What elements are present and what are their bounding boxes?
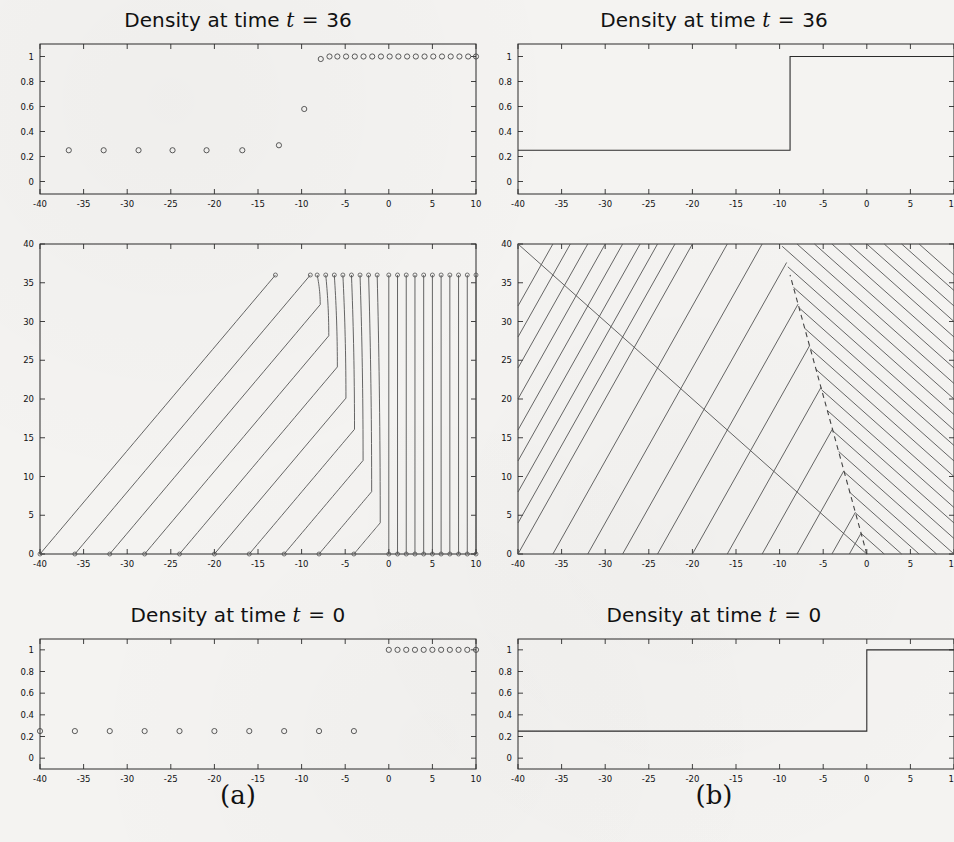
x-tick-label: 0 xyxy=(386,199,391,209)
x-tick-label: -5 xyxy=(819,199,827,209)
y-tick-label: 10 xyxy=(23,472,34,482)
x-tick-label: -25 xyxy=(164,199,178,209)
characteristic-right xyxy=(849,244,954,337)
density-marker xyxy=(327,54,332,59)
y-tick-label: 30 xyxy=(23,317,34,327)
x-tick-label: -35 xyxy=(77,199,91,209)
characteristic-right xyxy=(782,246,954,399)
panel-middle-left: -40-35-30-25-20-15-10-505100510152025303… xyxy=(0,230,476,595)
density-marker xyxy=(170,148,175,153)
density-marker xyxy=(430,647,435,652)
x-tick-label: -40 xyxy=(511,559,525,569)
plot-frame xyxy=(518,44,954,194)
y-tick-label: 5 xyxy=(507,510,512,520)
x-tick-label: -25 xyxy=(642,559,656,569)
x-tick-label: 10 xyxy=(949,559,954,569)
y-tick-label: 0 xyxy=(29,753,34,763)
density-marker xyxy=(107,728,112,733)
characteristic-right xyxy=(832,244,954,353)
density-marker xyxy=(316,728,321,733)
x-tick-label: -25 xyxy=(642,199,656,209)
characteristic-left xyxy=(518,244,588,368)
density-marker xyxy=(335,54,340,59)
title-prefix: Density at time xyxy=(131,603,293,627)
density-marker xyxy=(378,54,383,59)
y-tick-label: 0.2 xyxy=(20,152,34,162)
density-marker xyxy=(204,148,209,153)
characteristic-right xyxy=(799,308,954,446)
y-tick-label: 1 xyxy=(29,52,34,62)
x-tick-label: -20 xyxy=(207,199,221,209)
density-marker xyxy=(439,647,444,652)
shock-curve xyxy=(790,275,867,554)
y-tick-label: 15 xyxy=(501,433,512,443)
characteristic-right xyxy=(810,349,954,477)
title-value: 36 xyxy=(326,8,352,32)
title-equals: = xyxy=(301,8,320,32)
x-tick-label: 0 xyxy=(386,559,391,569)
vehicle-trajectory xyxy=(40,275,275,554)
density-marker xyxy=(396,54,401,59)
x-tick-label: 0 xyxy=(864,199,869,209)
y-tick-label: 0 xyxy=(507,177,512,187)
characteristic-right xyxy=(850,492,919,554)
density-marker xyxy=(386,647,391,652)
x-tick-label: -10 xyxy=(773,559,787,569)
characteristic-left xyxy=(518,244,675,523)
characteristic-left xyxy=(518,244,640,461)
y-tick-label: 0.6 xyxy=(20,102,34,112)
x-tick-label: -40 xyxy=(33,199,47,209)
x-tick-label: -30 xyxy=(598,559,612,569)
plot-area-vehicle-trajectories: -40-35-30-25-20-15-10-505100510152025303… xyxy=(40,244,476,554)
panel-title-bottom-left: Density at time t = 0 xyxy=(0,603,476,627)
panel-bottom-left: Density at time t = 0 -40-35-30-25-20-15… xyxy=(0,595,476,842)
characteristic-left xyxy=(518,244,623,430)
title-variable: t xyxy=(769,603,777,627)
subfigure-caption-a: (a) xyxy=(0,780,476,810)
y-tick-label: 35 xyxy=(23,278,34,288)
characteristic-right xyxy=(902,244,954,291)
density-marker xyxy=(387,54,392,59)
characteristic-left xyxy=(518,244,553,306)
y-tick-label: 0.6 xyxy=(498,688,512,698)
plot-area-characteristics: -40-35-30-25-20-15-10-505100510152025303… xyxy=(518,244,954,554)
y-tick-label: 0.2 xyxy=(20,732,34,742)
characteristic-right xyxy=(833,431,954,539)
vehicle-trajectory xyxy=(319,275,372,554)
density-marker xyxy=(240,148,245,153)
y-tick-label: 0.4 xyxy=(20,127,34,137)
characteristic-right xyxy=(793,287,954,430)
title-value: 36 xyxy=(802,8,828,32)
density-marker xyxy=(457,54,462,59)
title-variable: t xyxy=(762,8,770,32)
plot-area-density-t0-continuum: -40-35-30-25-20-15-10-5051000.20.40.60.8… xyxy=(518,639,954,769)
title-value: 0 xyxy=(809,603,822,627)
title-prefix: Density at time xyxy=(124,8,286,32)
plot-frame xyxy=(40,639,476,769)
panel-title-bottom-right: Density at time t = 0 xyxy=(476,603,952,627)
y-tick-label: 1 xyxy=(507,52,512,62)
density-marker xyxy=(352,54,357,59)
density-marker xyxy=(421,647,426,652)
y-tick-label: 30 xyxy=(501,317,512,327)
x-tick-label: -5 xyxy=(341,199,349,209)
density-marker xyxy=(413,54,418,59)
title-value: 0 xyxy=(333,603,346,627)
characteristic-right xyxy=(884,244,954,306)
title-variable: t xyxy=(286,8,294,32)
y-tick-label: 0.8 xyxy=(20,77,34,87)
characteristic-right xyxy=(797,244,954,384)
density-marker xyxy=(343,54,348,59)
panel-middle-right: -40-35-30-25-20-15-10-505100510152025303… xyxy=(476,230,952,595)
y-tick-label: 15 xyxy=(23,433,34,443)
y-tick-label: 5 xyxy=(29,510,34,520)
y-tick-label: 0.4 xyxy=(498,127,512,137)
density-marker xyxy=(177,728,182,733)
characteristic-left xyxy=(518,244,570,337)
characteristic-left xyxy=(762,429,832,554)
y-tick-label: 1 xyxy=(507,645,512,655)
y-tick-label: 0 xyxy=(507,753,512,763)
x-tick-label: -5 xyxy=(341,559,349,569)
x-tick-label: 5 xyxy=(908,559,913,569)
density-marker xyxy=(318,56,323,61)
